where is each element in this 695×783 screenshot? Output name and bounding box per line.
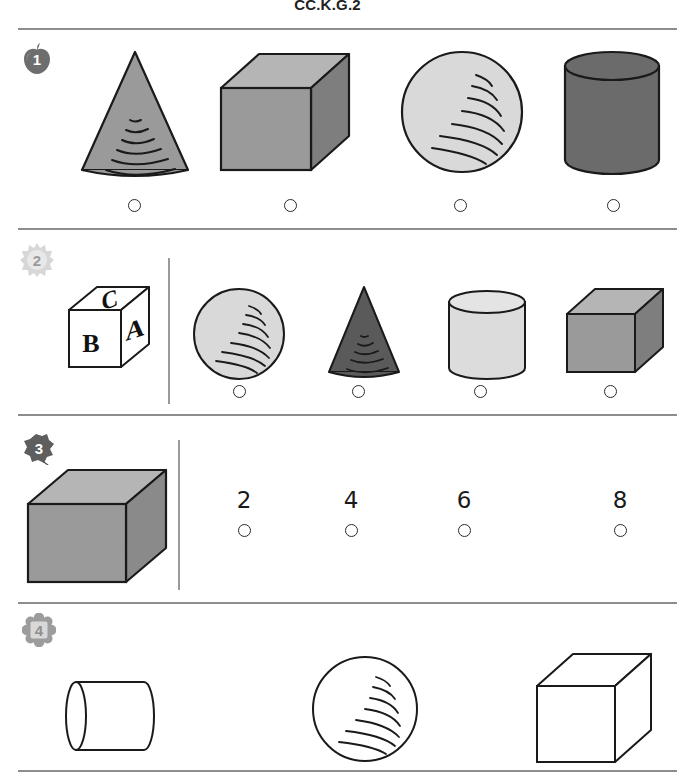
leaf-badge-icon: 3 — [22, 431, 56, 465]
answer-bubble-q2-option-c[interactable] — [474, 385, 487, 398]
choice-shape-cylinder — [444, 288, 530, 384]
choice-shape-cylinder — [559, 48, 665, 178]
prompt-shape-alphabet-block-cube: C B A — [64, 282, 154, 374]
question-3-number: 3 — [35, 441, 43, 456]
answer-bubble-q2-option-d[interactable] — [604, 385, 617, 398]
separator-q1-q2 — [18, 228, 677, 230]
sunburst-badge-icon: 2 — [20, 243, 54, 277]
apple-badge-icon: 1 — [20, 42, 54, 76]
answer-bubble-q1-option-b[interactable] — [284, 199, 297, 212]
choice-shape-sphere — [191, 286, 287, 382]
answer-bubble-q3-option-a[interactable] — [238, 524, 251, 537]
divider-q2 — [168, 258, 170, 404]
choice-shape-cube — [563, 285, 667, 381]
answer-bubble-q1-option-c[interactable] — [454, 199, 467, 212]
answer-bubble-q3-option-c[interactable] — [458, 524, 471, 537]
answer-bubble-q1-option-a[interactable] — [128, 199, 141, 212]
flower-badge-icon: 4 — [22, 613, 56, 647]
choice-shape-cone — [322, 284, 406, 382]
choice-shape-sphere — [398, 48, 526, 176]
answer-bubble-q3-option-d[interactable] — [614, 524, 627, 537]
choice-shape-cube — [215, 48, 355, 178]
divider-q3 — [178, 440, 180, 590]
choice-shape-cube — [533, 650, 655, 768]
separator-top — [18, 28, 677, 30]
question-2-number: 2 — [33, 253, 41, 268]
number-choice-label: 2 — [224, 487, 264, 513]
answer-bubble-q2-option-b[interactable] — [352, 385, 365, 398]
choice-shape-cone — [72, 48, 198, 180]
number-choice-label: 6 — [444, 487, 484, 513]
worksheet-page: CC.K.G.2 1 — [0, 0, 695, 783]
svg-text:B: B — [82, 329, 99, 358]
separator-q3-q4 — [18, 602, 677, 604]
standard-code-label: CC.K.G.2 — [0, 0, 695, 13]
choice-shape-cylinder-horizontal — [63, 678, 157, 754]
question-4-number: 4 — [35, 623, 43, 638]
prompt-shape-cube — [24, 464, 170, 588]
answer-bubble-q2-option-a[interactable] — [233, 385, 246, 398]
answer-bubble-q1-option-d[interactable] — [607, 199, 620, 212]
number-choice-label: 4 — [331, 487, 371, 513]
separator-bottom — [18, 770, 677, 772]
svg-text:C: C — [101, 283, 119, 316]
answer-bubble-q3-option-b[interactable] — [345, 524, 358, 537]
choice-shape-sphere — [310, 654, 420, 764]
separator-q2-q3 — [18, 414, 677, 416]
question-1-number: 1 — [33, 52, 41, 67]
number-choice-label: 8 — [600, 487, 640, 513]
